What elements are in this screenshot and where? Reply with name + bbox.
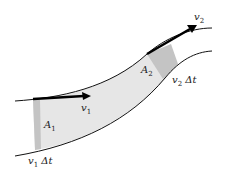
label-a2: A2	[141, 65, 153, 78]
label-v2-dt: v2 Δt	[172, 75, 197, 88]
slab-a1	[33, 100, 41, 151]
label-v1-dt: v1 Δt	[28, 156, 53, 169]
label-v2: v2	[194, 12, 204, 25]
label-a1: A1	[44, 120, 56, 133]
label-v1: v1	[81, 103, 91, 116]
flow-diagram	[0, 0, 226, 176]
